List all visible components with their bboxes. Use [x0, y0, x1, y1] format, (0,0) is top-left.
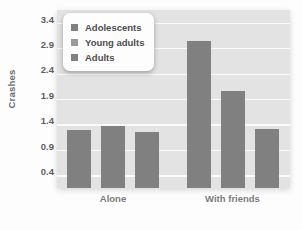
bar-alone-adolescents: [67, 130, 91, 189]
bar-alone-young-adults: [101, 126, 125, 188]
legend-swatch-icon: [71, 39, 78, 46]
legend-label-adolescents: Adolescents: [85, 22, 142, 33]
bar-alone-adults: [135, 132, 159, 188]
y-tick-0-9: 0.9: [26, 142, 54, 152]
bar-with-friends-adolescents: [187, 41, 211, 189]
x-tick-with-friends: With friends: [175, 193, 290, 204]
bar-with-friends-adults: [255, 129, 279, 189]
legend-swatch-icon: [71, 24, 78, 31]
legend-item-adolescents: Adolescents: [71, 20, 144, 34]
y-tick-2-9: 2.9: [26, 40, 54, 50]
legend-item-young-adults: Young adults: [71, 35, 144, 49]
bar-with-friends-young-adults: [221, 91, 245, 188]
y-tick-3-4: 3.4: [26, 15, 54, 25]
legend-label-adults: Adults: [85, 52, 115, 63]
gridline-2-4: [57, 74, 290, 75]
gridline-1-4: [57, 124, 290, 125]
y-tick-2-4: 2.4: [26, 65, 54, 75]
bar-chart-figure: Crashes 3.4 2.9 2.4 1.9 1.4 0.9 0.4 Adol…: [0, 0, 303, 230]
x-tick-alone: Alone: [57, 193, 169, 204]
legend-label-young-adults: Young adults: [85, 37, 144, 48]
y-axis-title: Crashes: [6, 54, 20, 124]
y-axis-tick-labels: 3.4 2.9 2.4 1.9 1.4 0.9 0.4: [26, 0, 54, 230]
chart-legend: Adolescents Young adults Adults: [63, 13, 154, 71]
y-tick-1-9: 1.9: [26, 91, 54, 101]
legend-item-adults: Adults: [71, 50, 144, 64]
y-tick-0-4: 0.4: [26, 167, 54, 177]
legend-swatch-icon: [71, 54, 78, 61]
y-tick-1-4: 1.4: [26, 116, 54, 126]
gridline-1-9: [57, 99, 290, 100]
